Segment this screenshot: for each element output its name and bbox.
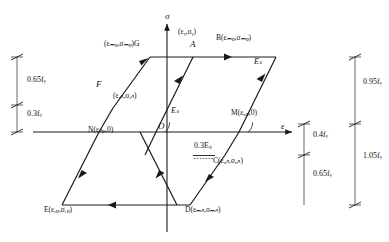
- dim-label-right-outer-upper: 0.95fᵧ: [363, 78, 382, 86]
- slope-label-Es-right: Eₛ: [254, 58, 262, 66]
- segment-inner-D: [140, 132, 177, 205]
- point-label-N: N(εₙₚ,0): [88, 126, 113, 134]
- sigma-axis-label: σ: [165, 12, 169, 21]
- right-inner-dimension-group: [298, 121, 310, 205]
- epsilon-axis-label: ε: [281, 122, 285, 131]
- point-label-E: E(εᵣₚ,σᵣₚ): [44, 206, 72, 214]
- point-coord-A: (εᵧ,σᵧ): [178, 28, 196, 36]
- point-label-D: D(εₘₙ,σₘₙ): [185, 206, 220, 214]
- dim-label-left-lower: 0.3fᵧ: [27, 110, 42, 118]
- segment-F-to-G: [113, 57, 150, 108]
- point-label-F: F: [96, 80, 102, 89]
- arrow-bottom-plateau: [108, 202, 116, 209]
- segment-B-to-M: [239, 57, 276, 132]
- right-outer-dimension-group: [349, 54, 361, 208]
- left-dimension-group: [11, 54, 23, 135]
- slope-label-Es-center: Eₛ: [171, 107, 179, 115]
- point-label-B: B(εₘₚ,σₘₚ): [216, 34, 251, 42]
- origin-label: O: [158, 122, 165, 131]
- figure-canvas: σ ε O (εₘₚ,σₘₚ)G (εᵧ,σᵧ) A B(εₘₚ,σₘₚ) Eₛ…: [0, 0, 389, 242]
- slope-03Es-indicator: [193, 156, 215, 159]
- slope-label-03Es: 0.3Eₛ: [194, 142, 212, 150]
- dim-label-right-inner-lower: 0.65fᵧ: [313, 170, 332, 178]
- point-label-A: A: [190, 40, 196, 49]
- point-label-M: M(εᵤₚ,0): [231, 109, 257, 117]
- segment-E-to-N: [62, 132, 99, 205]
- dim-label-left-upper: 0.65fᵧ: [27, 76, 46, 84]
- point-coord-F: (εᵣₙ,σᵣₙ): [113, 92, 137, 100]
- dim-label-right-inner-upper: 0.4fᵧ: [313, 131, 328, 139]
- point-label-G: (εₘₚ,σₘₚ)G: [104, 40, 139, 48]
- segment-M-to-C: [225, 132, 239, 155]
- arrow-top-plateau: [224, 54, 232, 61]
- dim-label-right-outer-lower: 1.05fᵧ: [363, 152, 382, 160]
- arrow-CD: [205, 174, 214, 182]
- arc-Es-right: [248, 123, 253, 133]
- point-label-C: C(εᵤₙ,σᵤₙ): [213, 157, 243, 165]
